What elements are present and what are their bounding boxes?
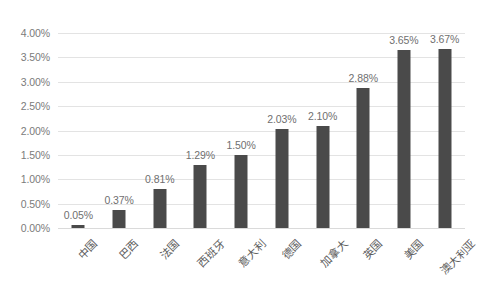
y-axis-tick-label: 1.50%: [21, 149, 50, 161]
x-axis-label-slot: 美国: [384, 231, 425, 292]
y-axis-tick-label: 0.50%: [21, 198, 50, 210]
bar[interactable]: [72, 225, 85, 228]
y-axis-tick-label: 2.00%: [21, 125, 50, 137]
bar[interactable]: [235, 155, 248, 228]
bar-slot: 0.05%: [58, 33, 99, 228]
bar[interactable]: [357, 88, 370, 228]
x-axis-label-slot: 巴西: [99, 231, 140, 292]
x-axis-category-label: 英国: [359, 235, 386, 262]
bar-slot: 1.50%: [221, 33, 262, 228]
y-axis-tick-label: 3.00%: [21, 76, 50, 88]
bar-slot: 2.88%: [343, 33, 384, 228]
bar-value-label: 1.50%: [227, 139, 256, 151]
bar-slot: 3.65%: [384, 33, 425, 228]
bar-value-label: 1.29%: [186, 149, 215, 161]
bar-value-label: 2.10%: [308, 110, 337, 122]
bar-slot: 2.03%: [262, 33, 303, 228]
bar[interactable]: [153, 189, 166, 228]
x-axis-label-slot: 澳大利亚: [424, 231, 465, 292]
y-axis: 0.00%0.50%1.00%1.50%2.00%2.50%3.00%3.50%…: [0, 0, 58, 292]
bar[interactable]: [113, 210, 126, 228]
bar-slot: 3.67%: [424, 33, 465, 228]
bar-slot: 1.29%: [180, 33, 221, 228]
y-axis-tick-label: 3.50%: [21, 51, 50, 63]
x-axis-label-slot: 法国: [139, 231, 180, 292]
bar[interactable]: [397, 50, 410, 228]
x-axis-label-slot: 德国: [262, 231, 303, 292]
plot-area: 0.05%0.37%0.81%1.29%1.50%2.03%2.10%2.88%…: [58, 33, 465, 228]
bar-value-label: 0.81%: [145, 173, 174, 185]
y-axis-tick-label: 0.00%: [21, 222, 50, 234]
bar-value-label: 3.67%: [430, 33, 459, 45]
x-axis-label-slot: 英国: [343, 231, 384, 292]
bar-value-label: 2.88%: [349, 72, 378, 84]
bar[interactable]: [316, 126, 329, 228]
x-axis-label-slot: 西班牙: [180, 231, 221, 292]
x-axis-label-slot: 中国: [58, 231, 99, 292]
y-axis-tick-label: 2.50%: [21, 100, 50, 112]
x-axis-category-label: 德国: [277, 235, 304, 262]
bar[interactable]: [275, 129, 288, 228]
bar[interactable]: [194, 165, 207, 228]
x-axis-category-label: 澳大利亚: [436, 235, 477, 277]
bar-slot: 0.81%: [139, 33, 180, 228]
bar-value-label: 0.37%: [104, 194, 133, 206]
y-axis-tick-label: 1.00%: [21, 173, 50, 185]
x-axis-category-label: 巴西: [114, 235, 141, 262]
bar-slot: 0.37%: [99, 33, 140, 228]
x-axis-label-slot: 加拿大: [302, 231, 343, 292]
x-axis-category-label: 法国: [155, 235, 182, 262]
bar-chart: 0.00%0.50%1.00%1.50%2.00%2.50%3.00%3.50%…: [0, 0, 477, 292]
x-axis-label-slot: 意大利: [221, 231, 262, 292]
y-axis-tick-label: 4.00%: [21, 27, 50, 39]
gridline: [58, 228, 465, 229]
bar-value-label: 0.05%: [64, 209, 93, 221]
bar[interactable]: [438, 49, 451, 228]
x-axis-category-label: 美国: [399, 235, 426, 262]
bar-value-label: 3.65%: [389, 34, 418, 46]
x-axis-labels: 中国巴西法国西班牙意大利德国加拿大英国美国澳大利亚: [58, 231, 465, 292]
bar-value-label: 2.03%: [267, 113, 296, 125]
bar-slot: 2.10%: [302, 33, 343, 228]
x-axis-category-label: 中国: [74, 235, 101, 262]
